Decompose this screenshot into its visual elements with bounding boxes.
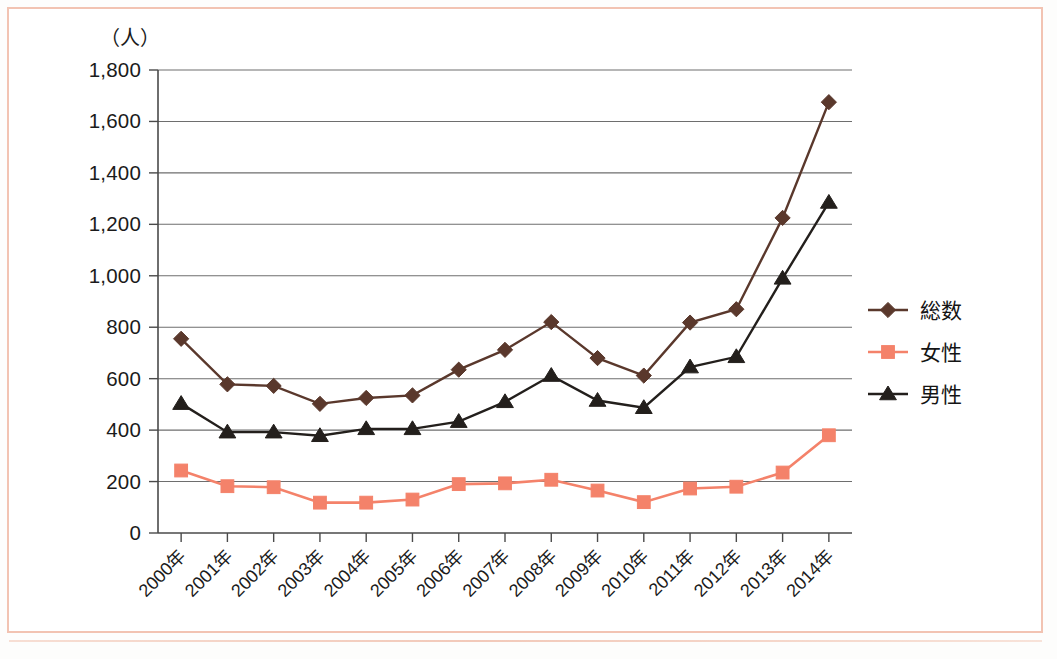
legend-item-男性[interactable]: 男性 xyxy=(868,383,962,406)
data-point-marker-diamond xyxy=(775,210,790,225)
y-tick-label: 0 xyxy=(129,521,141,544)
x-tick-label: 2007年 xyxy=(459,546,514,601)
series-総数 xyxy=(174,95,837,412)
data-point-marker-square xyxy=(882,346,895,359)
x-tick-label: 2012年 xyxy=(690,546,745,601)
data-point-marker-square xyxy=(499,477,512,490)
legend-label: 女性 xyxy=(920,341,962,364)
gridlines xyxy=(158,70,852,482)
legend-item-総数[interactable]: 総数 xyxy=(868,299,962,322)
y-tick-label: 1,600 xyxy=(89,109,141,132)
x-tick-label: 2009年 xyxy=(551,546,606,601)
data-point-marker-diamond xyxy=(405,388,420,403)
data-point-marker-triangle xyxy=(173,396,190,410)
x-tick-label: 2006年 xyxy=(412,546,467,601)
chart-legend: 総数女性男性 xyxy=(868,299,962,406)
data-point-marker-square xyxy=(267,481,280,494)
data-point-marker-square xyxy=(406,493,419,506)
data-point-marker-square xyxy=(452,478,465,491)
x-tick-label: 2014年 xyxy=(783,546,838,601)
data-point-marker-square xyxy=(822,429,835,442)
y-tick-label: 400 xyxy=(106,418,141,441)
x-tick-label: 2004年 xyxy=(320,546,375,601)
x-tick-label: 2003年 xyxy=(274,546,329,601)
x-tick-label: 2001年 xyxy=(181,546,236,601)
series-layer xyxy=(173,95,838,509)
data-point-marker-square xyxy=(545,473,558,486)
x-tick-label: 2010年 xyxy=(597,546,652,601)
x-tick-label: 2002年 xyxy=(227,546,282,601)
data-point-marker-diamond xyxy=(359,390,374,405)
x-axis-tick-labels: 2000年2001年2002年2003年2004年2005年2006年2007年… xyxy=(135,546,838,601)
data-point-marker-diamond xyxy=(497,342,512,357)
data-point-marker-square xyxy=(591,484,604,497)
data-point-marker-square xyxy=(730,480,743,493)
x-tick-label: 2000年 xyxy=(135,546,190,601)
data-point-marker-diamond xyxy=(312,396,327,411)
legend-label: 男性 xyxy=(920,383,962,406)
data-point-marker-triangle xyxy=(774,270,791,284)
data-point-marker-diamond xyxy=(880,302,895,317)
y-axis-unit-label: （人） xyxy=(100,27,160,49)
x-tick-label: 2011年 xyxy=(645,546,699,600)
x-tick-label: 2005年 xyxy=(366,546,421,601)
legend-label: 総数 xyxy=(920,299,962,322)
series-男性 xyxy=(173,194,838,441)
data-point-marker-square xyxy=(776,466,789,479)
x-tick-label: 2013年 xyxy=(736,546,791,601)
data-point-marker-triangle xyxy=(728,349,745,363)
y-tick-label: 600 xyxy=(106,367,141,390)
data-point-marker-square xyxy=(314,496,327,509)
line-chart: 02004006008001,0001,2001,4001,6001,800 2… xyxy=(0,0,1057,659)
data-point-marker-square xyxy=(637,496,650,509)
data-point-marker-triangle xyxy=(543,368,560,382)
data-point-marker-triangle xyxy=(497,394,514,408)
y-tick-marks xyxy=(149,70,158,533)
data-point-marker-square xyxy=(175,464,188,477)
y-tick-label: 200 xyxy=(106,470,141,493)
data-point-marker-square xyxy=(221,480,234,493)
x-tick-marks xyxy=(181,533,829,542)
data-point-marker-diamond xyxy=(729,302,744,317)
y-tick-label: 1,200 xyxy=(89,212,141,235)
data-point-marker-triangle xyxy=(589,393,606,407)
series-女性 xyxy=(175,429,836,509)
legend-item-女性[interactable]: 女性 xyxy=(868,341,962,364)
chart-svg: 02004006008001,0001,2001,4001,6001,800 2… xyxy=(0,0,1057,659)
data-point-marker-square xyxy=(684,482,697,495)
data-point-marker-triangle xyxy=(820,194,837,208)
y-tick-label: 1,800 xyxy=(89,58,141,81)
data-point-marker-diamond xyxy=(266,378,281,393)
y-tick-label: 800 xyxy=(106,315,141,338)
data-point-marker-diamond xyxy=(821,95,836,110)
data-point-marker-triangle xyxy=(450,414,467,428)
y-axis-tick-labels: 02004006008001,0001,2001,4001,6001,800 xyxy=(89,58,141,544)
data-point-marker-square xyxy=(360,496,373,509)
x-tick-label: 2008年 xyxy=(505,546,560,601)
data-point-marker-diamond xyxy=(451,362,466,377)
figure-root: 02004006008001,0001,2001,4001,6001,800 2… xyxy=(0,0,1057,659)
y-tick-label: 1,400 xyxy=(89,161,141,184)
y-tick-label: 1,000 xyxy=(89,264,141,287)
